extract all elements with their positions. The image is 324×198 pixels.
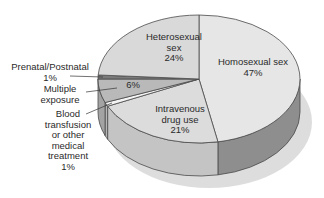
- label-heterosexual-sex: Heterosexual sex 24%: [136, 32, 212, 64]
- label-multiple-exposure: Multiple exposure: [34, 84, 86, 105]
- label-blood-transfusion: Blood transfusion or other medical treat…: [40, 109, 96, 172]
- label-intravenous-drug-use: Intravenous drug use 21%: [140, 104, 220, 136]
- label-prenatal-postnatal: Prenatal/Postnatal 1%: [2, 62, 98, 83]
- label-multiple-exposure-pct: 6%: [118, 80, 148, 91]
- label-homosexual-sex: Homosexual sex 47%: [208, 57, 298, 78]
